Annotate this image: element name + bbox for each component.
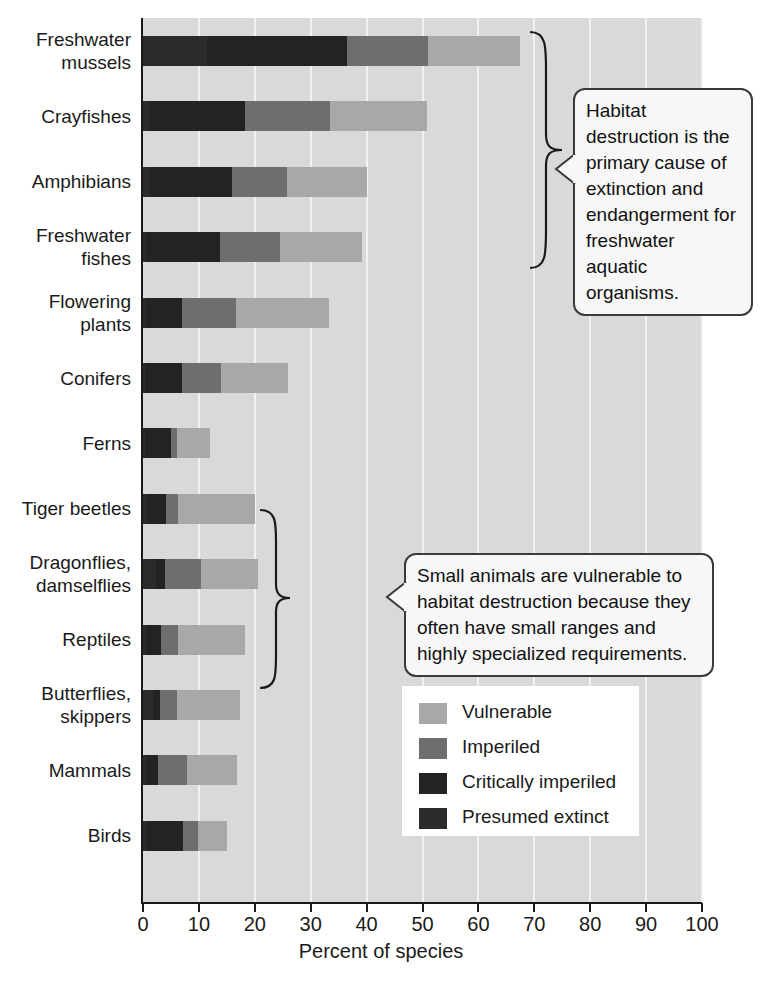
bar-segment bbox=[158, 755, 187, 785]
callout-freshwater-pointer bbox=[553, 152, 577, 186]
bar-row bbox=[143, 494, 702, 524]
bar-segment bbox=[201, 559, 257, 589]
x-axis-title: Percent of species bbox=[0, 940, 762, 963]
legend-swatch bbox=[419, 703, 447, 724]
x-axis-tick-label: 40 bbox=[347, 913, 387, 936]
x-axis-tick bbox=[701, 903, 703, 912]
bar-segment bbox=[146, 232, 220, 262]
bar-segment bbox=[428, 36, 520, 66]
callout-small-animals: Small animals are vulnerable to habitat … bbox=[404, 553, 714, 677]
bar-segment bbox=[178, 494, 255, 524]
bar-segment bbox=[182, 298, 236, 328]
bar-segment bbox=[166, 494, 178, 524]
bar-segment bbox=[160, 690, 177, 720]
legend-swatch bbox=[419, 773, 447, 794]
x-axis-tick-label: 60 bbox=[458, 913, 498, 936]
x-axis-tick bbox=[254, 903, 256, 912]
bar-segment bbox=[236, 298, 329, 328]
category-label: Dragonflies,damselflies bbox=[0, 551, 131, 597]
x-axis-tick-label: 70 bbox=[514, 913, 554, 936]
bar-segment bbox=[220, 232, 280, 262]
x-axis-tick-label: 50 bbox=[403, 913, 443, 936]
x-axis-tick-label: 90 bbox=[626, 913, 666, 936]
x-axis-tick-label: 20 bbox=[235, 913, 275, 936]
bar-segment bbox=[146, 755, 158, 785]
bar-segment bbox=[147, 494, 165, 524]
legend-label: Vulnerable bbox=[462, 701, 552, 723]
x-axis-tick-label: 10 bbox=[179, 913, 219, 936]
bar-segment bbox=[143, 167, 150, 197]
category-label: Freshwaterfishes bbox=[0, 224, 131, 270]
x-axis-tick bbox=[645, 903, 647, 912]
category-label: Birds bbox=[0, 824, 131, 847]
bar-row bbox=[143, 363, 702, 393]
bar-segment bbox=[178, 625, 245, 655]
legend-label: Imperiled bbox=[462, 736, 540, 758]
bar-segment bbox=[150, 167, 232, 197]
bar-segment bbox=[149, 101, 245, 131]
category-label: Reptiles bbox=[0, 628, 131, 651]
bar-segment bbox=[182, 363, 222, 393]
bar-segment bbox=[143, 36, 207, 66]
x-axis-tick bbox=[589, 903, 591, 912]
bar-segment bbox=[145, 428, 171, 458]
legend-label: Presumed extinct bbox=[462, 806, 609, 828]
x-axis-tick bbox=[533, 903, 535, 912]
legend-swatch bbox=[419, 738, 447, 759]
category-label: Mammals bbox=[0, 759, 131, 782]
legend-swatch bbox=[419, 808, 447, 829]
legend-label: Critically imperiled bbox=[462, 771, 616, 793]
bar-segment bbox=[146, 625, 161, 655]
bar-segment bbox=[187, 755, 237, 785]
species-imperilment-chart: 0102030405060708090100 Freshwatermussels… bbox=[0, 0, 762, 982]
x-axis-tick-label: 80 bbox=[570, 913, 610, 936]
bar-segment bbox=[221, 363, 288, 393]
bar-segment bbox=[145, 363, 181, 393]
bar-segment bbox=[330, 101, 427, 131]
callout-freshwater: Habitat destruction is the primary cause… bbox=[573, 88, 753, 316]
legend: VulnerableImperiledCritically imperiledP… bbox=[402, 686, 639, 836]
x-axis-tick-label: 0 bbox=[123, 913, 163, 936]
category-label: Tiger beetles bbox=[0, 497, 131, 520]
x-axis-tick bbox=[366, 903, 368, 912]
category-label: Floweringplants bbox=[0, 290, 131, 336]
category-label: Freshwatermussels bbox=[0, 28, 131, 74]
x-axis-tick bbox=[422, 903, 424, 912]
x-axis-tick-label: 30 bbox=[291, 913, 331, 936]
bar-row bbox=[143, 428, 702, 458]
bar-segment bbox=[177, 690, 240, 720]
brace-freshwater bbox=[528, 30, 576, 270]
bar-segment bbox=[287, 167, 367, 197]
bar-segment bbox=[232, 167, 287, 197]
bar-segment bbox=[146, 298, 182, 328]
bar-segment bbox=[280, 232, 362, 262]
category-label: Conifers bbox=[0, 367, 131, 390]
bar-row bbox=[143, 36, 702, 66]
brace-small-animals bbox=[258, 508, 302, 690]
bar-segment bbox=[153, 690, 160, 720]
bar-segment bbox=[177, 428, 209, 458]
x-axis-tick bbox=[310, 903, 312, 912]
category-label: Butterflies,skippers bbox=[0, 682, 131, 728]
x-axis-tick bbox=[477, 903, 479, 912]
callout-small-animals-pointer bbox=[384, 580, 408, 614]
x-axis-tick bbox=[142, 903, 144, 912]
category-label: Amphibians bbox=[0, 170, 131, 193]
bar-segment bbox=[347, 36, 428, 66]
bar-segment bbox=[143, 690, 153, 720]
bar-segment bbox=[161, 625, 178, 655]
bar-segment bbox=[165, 559, 201, 589]
category-label: Crayfishes bbox=[0, 105, 131, 128]
category-label: Ferns bbox=[0, 432, 131, 455]
bar-segment bbox=[143, 559, 156, 589]
bar-segment bbox=[156, 559, 166, 589]
bar-segment bbox=[198, 821, 227, 851]
bar-segment bbox=[207, 36, 347, 66]
x-axis-tick-label: 100 bbox=[682, 913, 722, 936]
bar-segment bbox=[245, 101, 331, 131]
x-axis-tick bbox=[198, 903, 200, 912]
bar-segment bbox=[183, 821, 198, 851]
bar-segment bbox=[146, 821, 183, 851]
